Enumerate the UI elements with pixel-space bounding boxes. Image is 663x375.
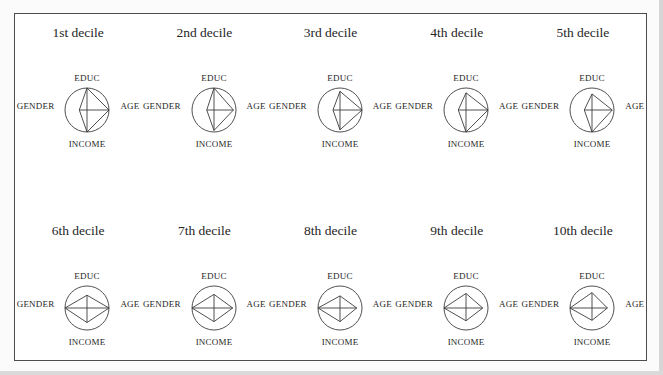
decile-title: 2nd decile xyxy=(176,24,232,42)
axis-label-income: INCOME xyxy=(69,139,106,149)
decile-cell-5: 5th decile GENDER EDUCINCOME AGE xyxy=(520,24,646,156)
glyph-block: GENDER EDUCINCOME AGE xyxy=(17,254,140,354)
axis-label-gender: GENDER xyxy=(395,101,433,111)
axis-label-gender: GENDER xyxy=(522,101,560,111)
star-glyph: EDUCINCOME xyxy=(184,254,244,354)
glyph-row-bottom: 6th decile GENDER EDUCINCOME AGE 7th dec… xyxy=(15,222,646,354)
decile-title: 6th decile xyxy=(52,222,105,240)
figure-frame: 1st decile GENDER EDUCINCOME AGE 2nd dec… xyxy=(14,13,647,361)
axis-label-educ: EDUC xyxy=(201,271,226,281)
axis-label-gender: GENDER xyxy=(269,299,307,309)
axis-label-educ: EDUC xyxy=(75,271,100,281)
star-polygon xyxy=(570,293,607,321)
decile-cell-2: 2nd decile GENDER EDUCINCOME AGE xyxy=(141,24,267,156)
axis-label-gender: GENDER xyxy=(143,299,181,309)
glyph-block: GENDER EDUCINCOME AGE xyxy=(269,254,392,354)
decile-cell-9: 9th decile GENDER EDUCINCOME AGE xyxy=(394,222,520,354)
decile-cell-8: 8th decile GENDER EDUCINCOME AGE xyxy=(267,222,393,354)
scan-edge-right xyxy=(659,0,663,375)
axis-label-gender: GENDER xyxy=(395,299,433,309)
decile-cell-7: 7th decile GENDER EDUCINCOME AGE xyxy=(141,222,267,354)
star-glyph: EDUCINCOME xyxy=(184,56,244,156)
star-glyph: EDUCINCOME xyxy=(310,254,370,354)
decile-title: 9th decile xyxy=(430,222,483,240)
glyph-block: GENDER EDUCINCOME AGE xyxy=(395,254,518,354)
axis-label-educ: EDUC xyxy=(580,73,605,83)
axis-label-age: AGE xyxy=(247,299,266,309)
glyph-block: GENDER EDUCINCOME AGE xyxy=(395,56,518,156)
axis-label-gender: GENDER xyxy=(17,299,55,309)
decile-cell-4: 4th decile GENDER EDUCINCOME AGE xyxy=(394,24,520,156)
axis-label-educ: EDUC xyxy=(327,73,352,83)
glyph-row-top: 1st decile GENDER EDUCINCOME AGE 2nd dec… xyxy=(15,24,646,156)
star-glyph: EDUCINCOME xyxy=(562,56,622,156)
decile-title: 7th decile xyxy=(178,222,231,240)
star-polygon xyxy=(318,296,357,322)
glyph-block: GENDER EDUCINCOME AGE xyxy=(522,56,645,156)
axis-label-gender: GENDER xyxy=(143,101,181,111)
star-polygon xyxy=(458,93,488,132)
star-polygon xyxy=(585,94,613,132)
axis-label-gender: GENDER xyxy=(522,299,560,309)
glyph-block: GENDER EDUCINCOME AGE xyxy=(143,56,266,156)
axis-label-educ: EDUC xyxy=(580,271,605,281)
axis-label-educ: EDUC xyxy=(453,73,478,83)
scan-edge-bottom xyxy=(0,371,663,375)
axis-label-income: INCOME xyxy=(69,337,106,347)
axis-label-educ: EDUC xyxy=(201,73,226,83)
axis-label-educ: EDUC xyxy=(453,271,478,281)
axis-label-income: INCOME xyxy=(195,337,232,347)
glyph-block: GENDER EDUCINCOME AGE xyxy=(269,56,392,156)
decile-cell-6: 6th decile GENDER EDUCINCOME AGE xyxy=(15,222,141,354)
axis-label-educ: EDUC xyxy=(75,73,100,83)
decile-title: 1st decile xyxy=(52,24,103,42)
decile-title: 4th decile xyxy=(430,24,483,42)
glyph-block: GENDER EDUCINCOME AGE xyxy=(143,254,266,354)
axis-label-age: AGE xyxy=(247,101,266,111)
decile-title: 5th decile xyxy=(556,24,609,42)
decile-title: 3rd decile xyxy=(304,24,358,42)
axis-label-income: INCOME xyxy=(574,139,611,149)
glyph-block: GENDER EDUCINCOME AGE xyxy=(17,56,140,156)
axis-label-age: AGE xyxy=(120,299,139,309)
axis-label-age: AGE xyxy=(625,299,644,309)
decile-cell-3: 3rd decile GENDER EDUCINCOME AGE xyxy=(267,24,393,156)
glyph-block: GENDER EDUCINCOME AGE xyxy=(522,254,645,354)
axis-label-age: AGE xyxy=(499,299,518,309)
axis-label-age: AGE xyxy=(499,101,518,111)
star-glyph: EDUCINCOME xyxy=(562,254,622,354)
axis-label-income: INCOME xyxy=(448,337,485,347)
decile-cell-10: 10th decile GENDER EDUCINCOME AGE xyxy=(520,222,646,354)
star-glyph: EDUCINCOME xyxy=(57,56,117,156)
axis-label-gender: GENDER xyxy=(17,101,55,111)
axis-label-income: INCOME xyxy=(448,139,485,149)
axis-label-age: AGE xyxy=(373,101,392,111)
decile-title: 8th decile xyxy=(304,222,357,240)
axis-label-age: AGE xyxy=(120,101,139,111)
axis-label-age: AGE xyxy=(373,299,392,309)
axis-label-gender: GENDER xyxy=(269,101,307,111)
axis-label-income: INCOME xyxy=(321,337,358,347)
axis-label-income: INCOME xyxy=(321,139,358,149)
axis-label-age: AGE xyxy=(625,101,644,111)
decile-title: 10th decile xyxy=(553,222,613,240)
star-glyph: EDUCINCOME xyxy=(57,254,117,354)
star-glyph: EDUCINCOME xyxy=(310,56,370,156)
star-polygon xyxy=(444,293,483,320)
star-glyph: EDUCINCOME xyxy=(436,56,496,156)
axis-label-educ: EDUC xyxy=(327,271,352,281)
decile-cell-1: 1st decile GENDER EDUCINCOME AGE xyxy=(15,24,141,156)
axis-label-income: INCOME xyxy=(195,139,232,149)
star-glyph: EDUCINCOME xyxy=(436,254,496,354)
axis-label-income: INCOME xyxy=(574,337,611,347)
